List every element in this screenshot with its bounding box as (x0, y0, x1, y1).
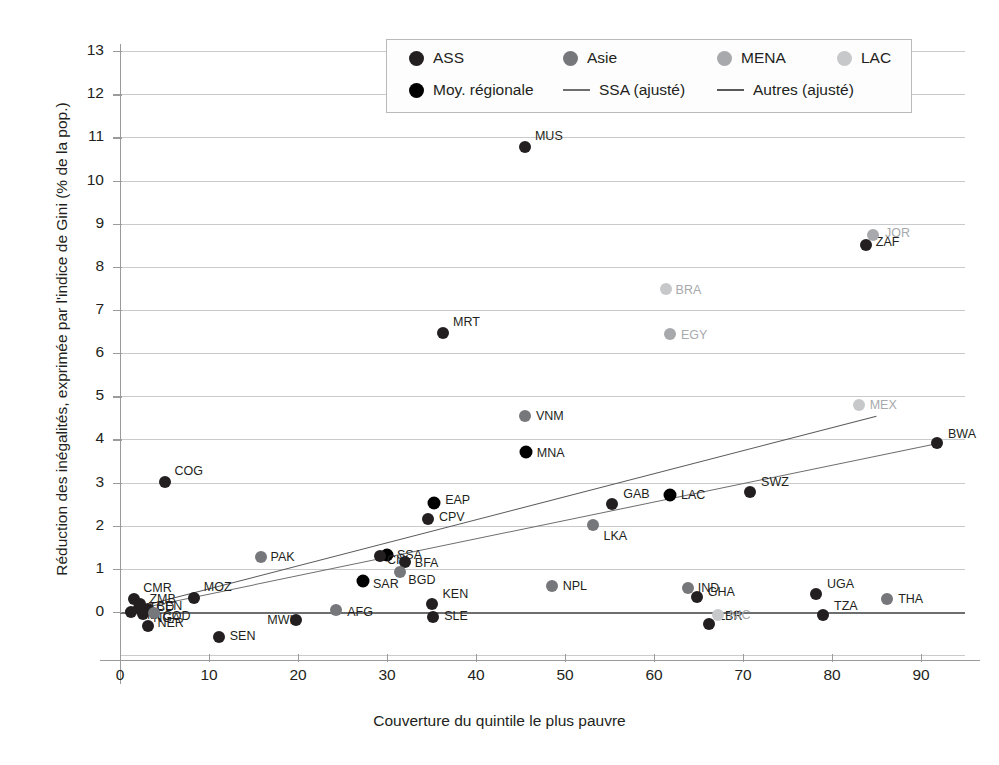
legend-item-ssaajust[interactable]: SSA (ajusté) (563, 81, 685, 99)
data-point-pak (255, 551, 267, 563)
y-tick-label: 8 (60, 257, 104, 275)
data-point-sar (356, 574, 369, 587)
data-point-mli (125, 606, 137, 618)
point-label-vnm: VNM (536, 409, 564, 422)
legend-label: SSA (ajusté) (599, 81, 685, 99)
y-tick-label: 2 (60, 516, 104, 534)
data-point-swz (744, 486, 756, 498)
y-tick-label: 13 (60, 41, 104, 59)
x-tick-mark (476, 654, 477, 662)
point-label-lac: LAC (681, 489, 705, 502)
data-point-bwa (931, 437, 943, 449)
point-label-mna: MNA (537, 447, 565, 460)
x-tick-label: 10 (184, 666, 234, 684)
data-point-lka (587, 519, 599, 531)
x-tick-mark (921, 654, 922, 662)
point-label-swz: SWZ (761, 475, 789, 488)
data-point-uga (810, 588, 822, 600)
point-label-mrt: MRT (453, 316, 480, 329)
data-point-ner (142, 620, 154, 632)
data-point-tza (817, 609, 829, 621)
trend-line (125, 416, 876, 611)
gridline (120, 655, 965, 656)
point-label-nic: NIC (729, 609, 751, 622)
point-label-cog: COG (175, 464, 203, 477)
legend-item-mena[interactable]: MENA (717, 49, 786, 67)
x-tick-label: 0 (95, 666, 145, 684)
legend-dot-icon (837, 51, 852, 66)
legend-item-ass[interactable]: ASS (409, 49, 464, 67)
x-axis-title: Couverture du quintile le plus pauvre (0, 712, 999, 730)
x-tick-label: 70 (718, 666, 768, 684)
plot-area: MUSZAFJORBRAMRTEGYVNMMEXBWAMNACOGSWZLACG… (120, 44, 965, 612)
x-tick-label: 50 (540, 666, 590, 684)
legend-dot-icon (409, 51, 424, 66)
data-point-mex (853, 399, 865, 411)
point-label-uga: UGA (827, 578, 854, 591)
data-point-mrt (437, 327, 449, 339)
y-tick-label: 7 (60, 300, 104, 318)
point-label-bgd: BGD (408, 574, 435, 587)
point-label-tza: TZA (834, 600, 858, 613)
point-label-mex: MEX (870, 399, 897, 412)
x-tick-label: 20 (273, 666, 323, 684)
data-point-bra (660, 283, 672, 295)
data-point-egy (664, 328, 676, 340)
y-tick-mark (113, 612, 122, 613)
trend-line (125, 443, 939, 612)
legend-line-icon (563, 89, 590, 91)
x-tick-mark (565, 654, 566, 662)
data-point-sen (213, 631, 225, 643)
data-point-cog (159, 476, 171, 488)
data-point-jor (867, 229, 879, 241)
data-point-afg (330, 604, 342, 616)
point-label-bwa: BWA (948, 428, 976, 441)
point-label-lka: LKA (603, 530, 627, 543)
point-label-sar: SAR (373, 578, 399, 591)
legend-dot-icon (563, 51, 578, 66)
point-label-ner: NER (157, 617, 183, 630)
legend-dot-icon (409, 83, 424, 98)
chart-canvas: Réduction des inégalités, exprimée par l… (0, 0, 999, 765)
point-label-mus: MUS (535, 130, 563, 143)
point-label-gha: GHA (708, 586, 735, 599)
x-tick-mark (832, 654, 833, 662)
data-point-tha (881, 593, 893, 605)
y-tick-label: 1 (60, 559, 104, 577)
x-tick-mark (209, 654, 210, 662)
legend-item-asie[interactable]: Asie (563, 49, 617, 67)
x-tick-mark (387, 654, 388, 662)
data-point-mna (519, 446, 532, 459)
point-label-tha: THA (898, 593, 923, 606)
y-tick-label: 10 (60, 171, 104, 189)
legend-label: Asie (587, 49, 617, 67)
data-point-ken (426, 598, 438, 610)
point-label-sen: SEN (230, 630, 256, 643)
point-label-bra: BRA (676, 284, 702, 297)
y-tick-label: 11 (60, 127, 104, 145)
legend-item-autresajust[interactable]: Autres (ajusté) (717, 81, 854, 99)
data-point-zaf (860, 239, 872, 251)
point-label-bfa: BFA (415, 556, 439, 569)
x-tick-mark (654, 654, 655, 662)
legend-label: MENA (741, 49, 786, 67)
x-tick-label: 90 (896, 666, 946, 684)
data-point-vnm (519, 410, 531, 422)
legend-item-lac[interactable]: LAC (837, 49, 891, 67)
point-label-moz: MOZ (204, 581, 232, 594)
x-tick-label: 40 (451, 666, 501, 684)
point-label-mwi: MWI (267, 614, 293, 627)
point-label-gab: GAB (623, 488, 649, 501)
x-tick-label: 80 (807, 666, 857, 684)
data-point-gab (606, 498, 618, 510)
x-tick-mark (743, 654, 744, 662)
y-tick-label: 6 (60, 343, 104, 361)
data-point-gha (691, 591, 703, 603)
data-point-lac (664, 489, 677, 502)
data-point-nic (712, 609, 724, 621)
legend-label: Moy. régionale (433, 81, 534, 99)
y-tick-label: 9 (60, 214, 104, 232)
y-tick-label: 3 (60, 473, 104, 491)
point-label-ken: KEN (443, 588, 469, 601)
legend-item-moyrgionale[interactable]: Moy. régionale (409, 81, 534, 99)
